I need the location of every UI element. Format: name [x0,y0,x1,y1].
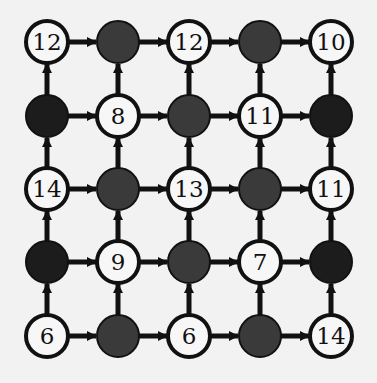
node-circle [97,21,139,63]
labeled-node: 13 [168,168,210,210]
node-label: 11 [245,103,274,129]
node-label: 10 [316,29,345,55]
labeled-node: 7 [239,241,281,283]
node-circle [26,95,68,137]
filled-node [97,21,139,63]
labeled-node: 6 [26,315,68,357]
node-circle [239,168,281,210]
grid-diagram: 121210811141311976614 [0,0,377,383]
labeled-node: 12 [26,21,68,63]
filled-node [310,95,352,137]
filled-node [97,315,139,357]
filled-node [26,241,68,283]
node-label: 12 [174,29,203,55]
filled-node [239,315,281,357]
node-label: 13 [174,176,203,202]
node-label: 6 [40,323,55,349]
node-circle [168,95,210,137]
node-label: 12 [32,29,61,55]
filled-node [239,21,281,63]
node-label: 11 [316,176,345,202]
node-circle [310,95,352,137]
labeled-node: 14 [26,168,68,210]
node-circle [26,241,68,283]
grid-graph-svg: 121210811141311976614 [0,0,377,383]
labeled-node: 8 [97,95,139,137]
filled-node [310,241,352,283]
node-circle [97,168,139,210]
node-label: 7 [253,249,268,275]
node-label: 14 [32,176,61,202]
filled-node [97,168,139,210]
labeled-node: 11 [239,95,281,137]
filled-node [168,241,210,283]
labeled-node: 12 [168,21,210,63]
labeled-node: 9 [97,241,139,283]
filled-node [168,95,210,137]
node-circle [97,315,139,357]
labeled-node: 6 [168,315,210,357]
node-label: 6 [182,323,197,349]
node-circle [239,21,281,63]
labeled-node: 10 [310,21,352,63]
filled-node [239,168,281,210]
node-circle [168,241,210,283]
labeled-node: 14 [310,315,352,357]
node-circle [239,315,281,357]
node-label: 8 [111,103,126,129]
node-label: 14 [316,323,345,349]
filled-node [26,95,68,137]
labeled-node: 11 [310,168,352,210]
node-circle [310,241,352,283]
node-label: 9 [111,249,126,275]
